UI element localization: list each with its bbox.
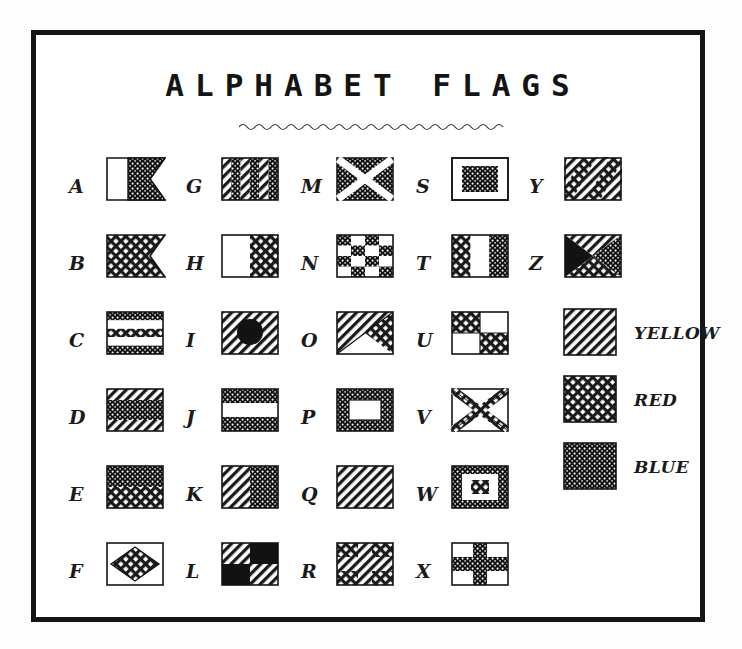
legend-label-yellow: YELLOW xyxy=(634,323,720,343)
flag-L xyxy=(221,542,279,586)
legend-label-blue: BLUE xyxy=(634,457,689,477)
chart-frame: ALPHABET FLAGS xyxy=(31,30,705,622)
flag-letter-Z: Z xyxy=(529,252,543,274)
flag-W xyxy=(451,465,509,509)
flag-T xyxy=(451,234,509,278)
flag-D xyxy=(106,388,164,432)
flag-letter-H: H xyxy=(186,252,204,274)
flag-letter-Q: Q xyxy=(301,483,318,505)
flag-C xyxy=(106,311,164,355)
legend-swatch-red xyxy=(563,375,617,423)
flag-J xyxy=(221,388,279,432)
flag-N xyxy=(336,234,394,278)
flag-letter-O: O xyxy=(301,329,318,351)
flag-letter-M: M xyxy=(301,175,322,197)
flag-K xyxy=(221,465,279,509)
flag-letter-V: V xyxy=(416,406,431,428)
flag-V xyxy=(451,388,509,432)
legend-label-red: RED xyxy=(634,390,677,410)
page-title: ALPHABET FLAGS xyxy=(36,67,710,103)
flag-O xyxy=(336,311,394,355)
flag-letter-R: R xyxy=(301,560,317,582)
flag-X xyxy=(451,542,509,586)
flag-B xyxy=(106,234,166,278)
legend-swatch-blue xyxy=(563,442,617,490)
flag-letter-S: S xyxy=(416,175,430,197)
flag-letter-D: D xyxy=(69,406,85,428)
flag-E xyxy=(106,465,164,509)
flag-letter-U: U xyxy=(416,329,433,351)
wavy-underline xyxy=(239,119,509,133)
legend-swatch-yellow xyxy=(563,308,617,356)
flag-letter-K: K xyxy=(186,483,203,505)
flag-letter-X: X xyxy=(416,560,431,582)
flag-letter-G: G xyxy=(186,175,202,197)
flag-H xyxy=(221,234,279,278)
flag-letter-C: C xyxy=(69,329,84,351)
flag-Z xyxy=(564,234,622,278)
flag-letter-I: I xyxy=(186,329,195,351)
flag-letter-J: J xyxy=(186,406,195,428)
flag-letter-F: F xyxy=(69,560,83,582)
flag-R xyxy=(336,542,394,586)
flag-letter-Y: Y xyxy=(529,175,543,197)
flag-letter-E: E xyxy=(69,483,83,505)
flag-Y xyxy=(564,157,622,201)
flag-A xyxy=(106,157,166,201)
flag-M xyxy=(336,157,394,201)
flag-F xyxy=(106,542,164,586)
flag-letter-A: A xyxy=(69,175,84,197)
flag-letter-N: N xyxy=(301,252,318,274)
flag-letter-P: P xyxy=(301,406,315,428)
flag-G xyxy=(221,157,279,201)
paper-sheet: ALPHABET FLAGS xyxy=(0,0,742,649)
flag-S xyxy=(451,157,509,201)
flag-U xyxy=(451,311,509,355)
flag-letter-T: T xyxy=(416,252,430,274)
flag-P xyxy=(336,388,394,432)
flag-I xyxy=(221,311,279,355)
flag-letter-W: W xyxy=(416,483,437,505)
flag-letter-L: L xyxy=(186,560,199,582)
flag-letter-B: B xyxy=(69,252,85,274)
flag-Q xyxy=(336,465,394,509)
